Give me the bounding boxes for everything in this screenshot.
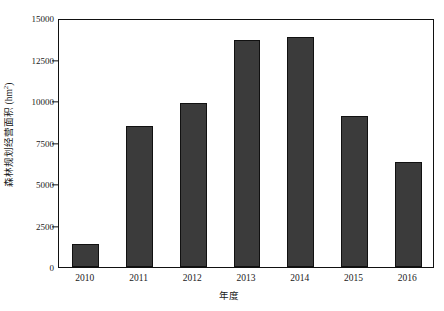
x-axis-tick-label: 2015 bbox=[323, 272, 383, 284]
x-axis-tick-label: 2014 bbox=[270, 272, 330, 284]
bars-layer bbox=[59, 20, 433, 267]
bar bbox=[395, 162, 422, 267]
x-axis-tick-label: 2012 bbox=[162, 272, 222, 284]
y-axis-tick-label: 15000 bbox=[14, 15, 54, 24]
bar bbox=[287, 37, 314, 267]
y-axis-title-superscript: 2 bbox=[2, 86, 9, 89]
y-axis-tick-label: 7500 bbox=[14, 139, 54, 148]
y-axis-title-tail: ) bbox=[4, 83, 14, 86]
bar bbox=[126, 126, 153, 267]
y-axis-tick-label: 0 bbox=[14, 264, 54, 273]
x-axis-title: 年度 bbox=[0, 290, 444, 302]
y-axis-tick-label: 12500 bbox=[14, 56, 54, 65]
y-axis-tick-labels: 0250050007500100001250015000 bbox=[14, 0, 54, 311]
x-axis-title-text: 年度 bbox=[219, 290, 239, 302]
x-axis-tick-label: 2016 bbox=[377, 272, 437, 284]
bar bbox=[234, 40, 261, 267]
plot-area bbox=[58, 19, 434, 268]
y-axis-tick-label: 5000 bbox=[14, 181, 54, 190]
bar bbox=[341, 116, 368, 267]
y-axis-tick-label: 2500 bbox=[14, 222, 54, 231]
bar bbox=[72, 244, 99, 267]
bar-chart-figure: 森林规划经营面积 (hm2) 0250050007500100001250015… bbox=[0, 0, 444, 311]
x-axis-tick-labels: 2010201120122013201420152016 bbox=[58, 272, 434, 288]
y-axis-title-main: 森林规划经营面积 (hm bbox=[4, 89, 14, 187]
bar bbox=[180, 103, 207, 267]
x-axis-tick-label: 2013 bbox=[216, 272, 276, 284]
x-axis-tick-label: 2010 bbox=[55, 272, 115, 284]
x-axis-tick-label: 2011 bbox=[109, 272, 169, 284]
y-axis-tick-label: 10000 bbox=[14, 98, 54, 107]
